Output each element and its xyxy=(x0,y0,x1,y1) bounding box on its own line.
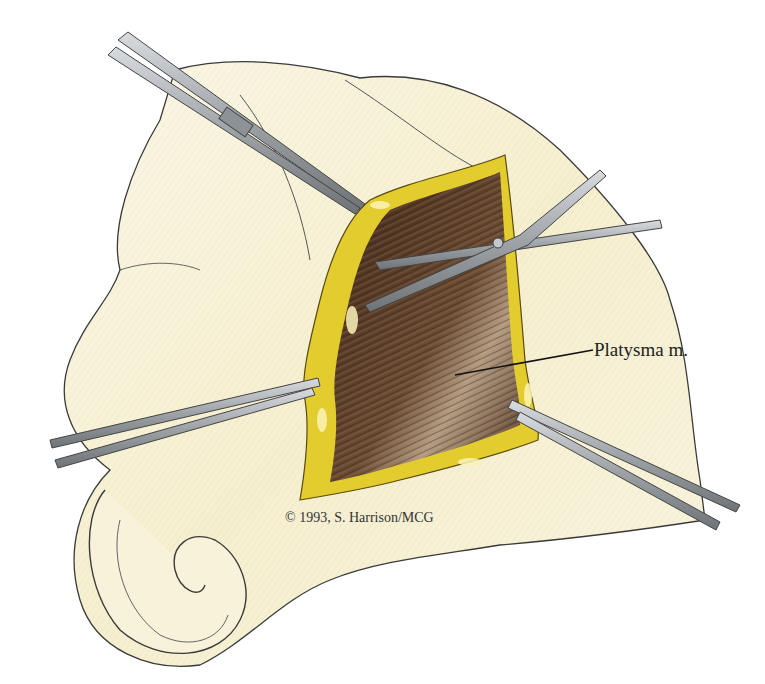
copyright-credit: © 1993, S. Harrison/MCG xyxy=(285,510,434,526)
platysma-label: Platysma m. xyxy=(594,339,688,361)
